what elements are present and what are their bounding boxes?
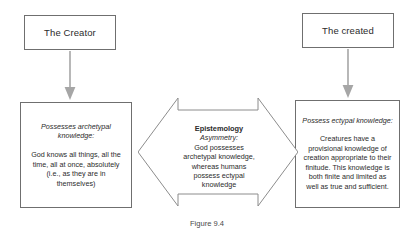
node-the-created-label: The created [322,25,374,37]
figure-canvas: The Creator The created Possesses archet… [0,0,414,244]
arrow-down-icon [65,51,76,100]
epistemology-subtitle: Asymmetry: [180,133,258,142]
ectypal-heading: Possess ectypal knowledge: [302,116,392,126]
connector-created-to-ectypal [341,49,355,99]
epistemology-body: God possesses archetypal knowledge, wher… [180,143,258,190]
archetypal-heading: Possesses archetypal knowledge: [28,122,124,141]
node-the-creator: The Creator [24,15,116,50]
archetypal-body: God knows all things, all the time, all … [28,150,124,188]
node-ectypal-knowledge: Possess ectypal knowledge: Creatures hav… [295,100,400,208]
node-archetypal-knowledge: Possesses archetypal knowledge: God know… [20,102,132,208]
connector-creator-to-archetypal [63,51,77,101]
epistemology-title: Epistemology [180,124,258,133]
ectypal-body: Creatures have a provisional knowledge o… [302,134,393,192]
figure-caption: Figure 9.4 [0,219,414,228]
epistemology-text-block: Epistemology Asymmetry: God possesses ar… [180,124,258,190]
node-the-creator-label: The Creator [44,27,96,39]
node-the-created: The created [302,13,394,48]
arrow-down-icon [343,49,354,98]
bidirectional-arrow-epistemology: Epistemology Asymmetry: God possesses ar… [138,96,298,208]
